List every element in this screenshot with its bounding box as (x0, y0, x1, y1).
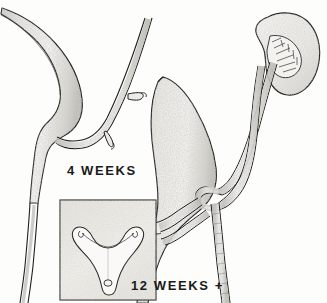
urethral-orifice (104, 280, 112, 286)
panel-12-weeks (137, 13, 320, 303)
ureteric-bud-lower (104, 131, 114, 149)
caption-4-weeks: 4 WEEKS (67, 164, 137, 177)
anatomical-illustration (0, 0, 327, 303)
ureteric-bud-upper (128, 93, 146, 101)
caption-12-weeks: 12 WEEKS + (131, 279, 224, 292)
